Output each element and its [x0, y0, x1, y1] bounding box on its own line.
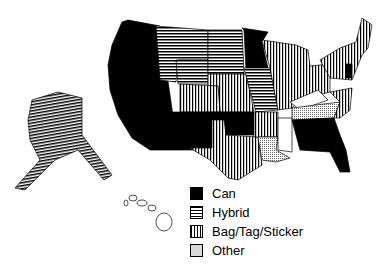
horizontal-stripe-swatch-icon — [190, 206, 203, 219]
state-alaska — [15, 92, 112, 190]
state-hawaii — [124, 195, 172, 231]
vertical-stripe-swatch-icon — [190, 225, 203, 238]
state-minnesota — [242, 28, 268, 70]
state-colorado — [180, 84, 220, 112]
legend-item-hybrid: Hybrid — [190, 203, 303, 222]
dotted-swatch-icon — [190, 244, 203, 257]
us-map-figure: Can Hybrid Bag/Tag/Sticker Other — [0, 0, 387, 270]
solid-swatch-icon — [190, 187, 203, 200]
map-legend: Can Hybrid Bag/Tag/Sticker Other — [190, 184, 303, 260]
state-mississippi — [278, 118, 292, 152]
state-georgia-florida — [292, 118, 350, 172]
legend-label: Bag/Tag/Sticker — [212, 224, 303, 239]
state-new-mexico — [150, 112, 212, 150]
legend-item-bag: Bag/Tag/Sticker — [190, 222, 303, 241]
legend-label: Can — [212, 186, 236, 201]
state-arkansas — [254, 112, 278, 137]
legend-item-can: Can — [190, 184, 303, 203]
state-dakotas — [208, 30, 244, 74]
legend-item-other: Other — [190, 241, 303, 260]
legend-label: Other — [212, 243, 245, 258]
state-new-jersey — [346, 64, 352, 78]
state-wyoming — [176, 60, 208, 84]
legend-label: Hybrid — [212, 205, 250, 220]
